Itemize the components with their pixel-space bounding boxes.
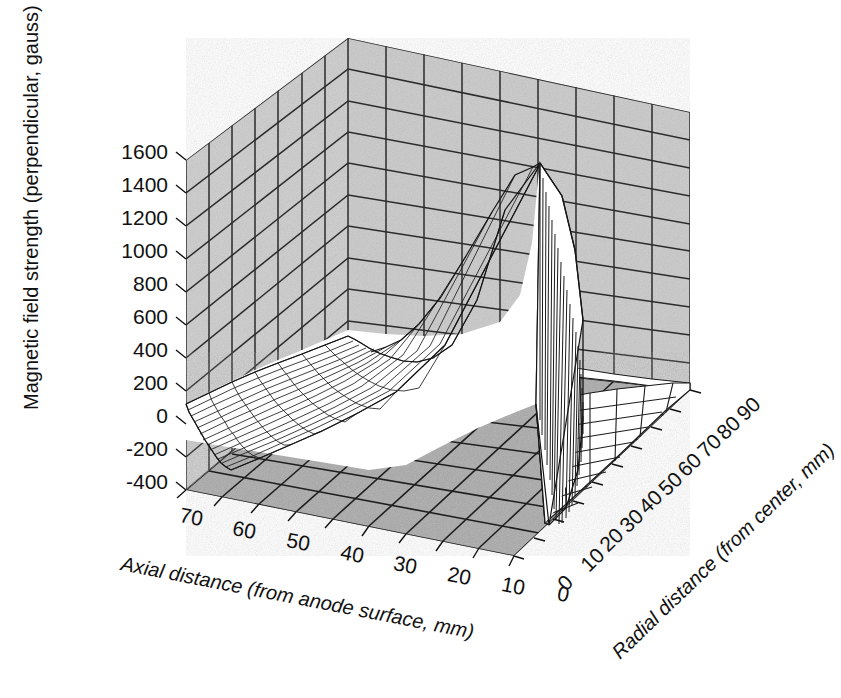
z-tick-label: 0: [156, 404, 168, 427]
z-tick-label: -400: [126, 470, 168, 493]
x-tick-label: 20: [446, 562, 473, 589]
surface-plot-svg: 1600 1400 1200 1000 800 600 400 200 0 -2…: [0, 0, 841, 698]
z-tick-label: 1000: [121, 239, 168, 262]
x-tick-label: 60: [231, 516, 258, 543]
x-tick-label: 30: [392, 551, 419, 578]
x-tick-label: 40: [339, 540, 366, 567]
z-tick-label: 200: [133, 371, 168, 394]
x-tick-label: 70: [178, 503, 205, 530]
x-tick-label: 10: [500, 572, 527, 599]
z-tick-label: 400: [133, 338, 168, 361]
z-tick-label: 1600: [121, 140, 168, 163]
z-tick-label: 600: [133, 305, 168, 328]
x-tick-label: 50: [285, 528, 312, 555]
z-axis-title: Magnetic field strength (perpendicular, …: [20, 5, 42, 410]
z-tick-label: 1400: [121, 173, 168, 196]
z-tick-label: 800: [133, 272, 168, 295]
z-tick-label: -200: [126, 437, 168, 460]
figure-root: 1600 1400 1200 1000 800 600 400 200 0 -2…: [0, 0, 841, 698]
z-tick-label: 1200: [121, 206, 168, 229]
